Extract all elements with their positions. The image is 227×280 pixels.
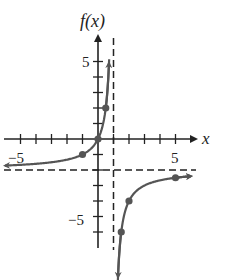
function-graph: f(x) x −5 5 5 −5 — [0, 0, 227, 280]
x-tick-label-neg5: −5 — [8, 150, 24, 166]
data-point — [125, 197, 132, 204]
x-tick-label-5: 5 — [171, 150, 179, 166]
data-point — [118, 228, 125, 235]
asymptotes — [4, 38, 196, 250]
y-tick-label-neg5: −5 — [68, 212, 84, 228]
curve-right-branch — [118, 176, 191, 280]
data-point — [94, 135, 101, 142]
y-tick-label-5: 5 — [82, 54, 90, 70]
y-axis-label: f(x) — [80, 11, 105, 32]
x-axis-label: x — [201, 129, 210, 148]
data-point — [102, 104, 109, 111]
data-point — [172, 174, 179, 181]
data-point — [79, 151, 86, 158]
